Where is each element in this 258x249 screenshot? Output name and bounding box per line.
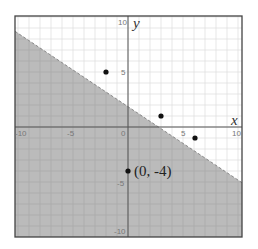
x-tick-label: 10 xyxy=(232,129,241,138)
y-tick-label: 5 xyxy=(121,68,126,77)
data-point xyxy=(158,113,163,118)
y-tick-label: -10 xyxy=(114,227,126,236)
data-point xyxy=(125,168,130,173)
x-tick-label: -10 xyxy=(15,129,27,138)
coordinate-plane: -10 -5 0 5 10 10 5 -5 -10 x y (0, -4) xyxy=(0,0,258,249)
y-tick-label: -5 xyxy=(117,179,125,188)
y-axis-label: y xyxy=(131,15,140,31)
x-tick-label: 5 xyxy=(181,129,186,138)
x-tick-label: 0 xyxy=(121,129,126,138)
y-tick-label: 10 xyxy=(118,18,127,27)
data-point xyxy=(192,135,197,140)
point-annotation: (0, -4) xyxy=(134,163,172,180)
x-axis-label: x xyxy=(230,112,238,128)
x-tick-label: -5 xyxy=(67,129,75,138)
data-point xyxy=(103,69,108,74)
